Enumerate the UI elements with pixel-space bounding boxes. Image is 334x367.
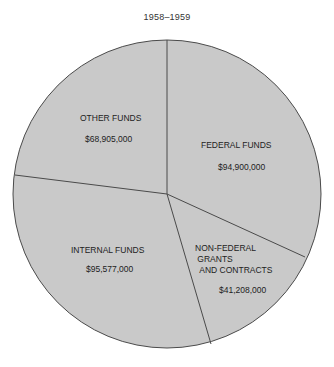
slice-value-nonfederal-grants: $41,208,000 (219, 285, 266, 295)
slice-value-other-funds: $68,905,000 (85, 134, 132, 144)
slice-label-federal-funds: FEDERAL FUNDS (201, 140, 272, 151)
slice-label-nonfederal-grants: NON-FEDERAL GRANTS AND CONTRACTS (195, 243, 272, 276)
slice-value-internal-funds: $95,577,000 (86, 264, 133, 274)
slice-value-federal-funds: $94,900,000 (218, 162, 265, 172)
slice-label-internal-funds: INTERNAL FUNDS (71, 245, 144, 256)
slice-label-other-funds: OTHER FUNDS (80, 113, 141, 124)
pie-chart (0, 0, 334, 367)
